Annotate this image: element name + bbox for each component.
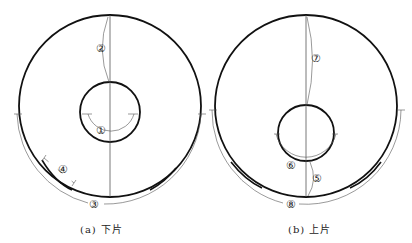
caption-b: (b) 上片: [288, 221, 331, 236]
dimension-arc-8: [212, 110, 283, 203]
diagram-canvas: [0, 0, 412, 243]
label-6: ⑥: [286, 159, 297, 172]
panel-b: [209, 15, 405, 204]
label-1: ①: [96, 124, 107, 137]
label-5: ⑤: [312, 172, 323, 185]
dimension-arc-3: [17, 114, 88, 203]
label-4: ④: [58, 163, 69, 176]
label-2: ②: [96, 42, 107, 55]
label-3: ③: [89, 198, 100, 211]
label-7: ⑦: [311, 52, 322, 65]
caption-a: (a) 下片: [80, 221, 123, 236]
label-8: ⑧: [286, 198, 297, 211]
panel-a: [14, 15, 206, 204]
dimension-arc-1: [88, 114, 134, 131]
